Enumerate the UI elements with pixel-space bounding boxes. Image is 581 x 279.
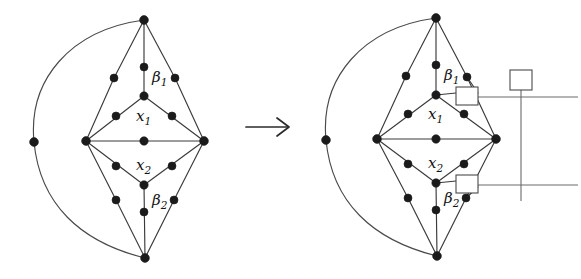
right-vertex-x1-left [404, 110, 412, 118]
figure-root: β1 x1 x2 β2 β1 x1 x2 β2 [0, 0, 581, 279]
right-label-beta-1: β1 [443, 66, 459, 86]
left-vertex-x1-left [112, 112, 120, 120]
right-vertex-x2-right [460, 160, 468, 168]
left-edge-top-to-upperleft [114, 20, 144, 78]
left-label-beta-1: β1 [151, 68, 167, 88]
right-vertex-x1-right [460, 110, 468, 118]
right-edge-midleft-to-lowerleft [377, 139, 408, 198]
right-vertex-lower-left-outer [404, 194, 412, 202]
left-label-beta-2-sub: 2 [160, 199, 168, 211]
figure-canvas: β1 x1 x2 β2 β1 x1 x2 β2 [0, 0, 581, 279]
right-edge-upperleft-to-midleft [377, 76, 406, 139]
right-vertex-x2-left [404, 160, 412, 168]
right-label-beta-1-base: β [443, 66, 453, 84]
left-vertex-x2-bottom [140, 181, 148, 189]
right-edge-upperright-to-midright [467, 77, 496, 139]
left-vertex-x1-right [168, 112, 176, 120]
left-label-x-1-sub: 1 [144, 115, 151, 127]
right-vertex-x2-bottom [432, 179, 440, 187]
left-vertex-mid-left [82, 137, 91, 146]
box-root-top [510, 70, 532, 90]
right-vertex-upper-mid-stem [432, 61, 440, 69]
left-edge-upperleft-to-midleft [86, 78, 114, 141]
left-edge-lowerleft-to-bottom [116, 200, 145, 258]
left-label-beta-1-base: β [151, 68, 161, 86]
left-edge-x2bottom-to-bottom [144, 185, 145, 258]
right-vertex-lower-mid-stem [432, 206, 440, 214]
left-vertex-upper-right-outer [171, 74, 179, 82]
right-label-x-1-sub: 1 [436, 113, 443, 125]
right-vertex-mid-left [373, 135, 382, 144]
left-edge-upperright-to-midright [175, 78, 204, 141]
right-edge-x2bottom-to-bottom [436, 183, 437, 256]
right-label-beta-2-sub: 2 [452, 197, 460, 209]
left-edge-midright-to-lowerright [174, 141, 204, 200]
left-vertex-upper-mid-stem [140, 63, 148, 71]
right-edge-top-to-upperleft [406, 18, 436, 76]
right-label-x-1: x1 [428, 105, 443, 125]
left-vertex-lower-left-outer [112, 196, 120, 204]
left-vertex-lower-right-outer [170, 196, 178, 204]
right-vertex-mid-right [492, 135, 501, 144]
left-vertex-x2-right [168, 162, 176, 170]
left-label-beta-2-base: β [151, 191, 161, 209]
left-label-x-2-sub: 2 [143, 164, 151, 176]
left-vertex-upper-left-outer [110, 74, 118, 82]
box-beta-1-attachment [456, 87, 478, 105]
right-edge-lowerleft-to-bottom [408, 198, 437, 256]
left-label-beta-2: β2 [151, 191, 168, 211]
left-label-x-1: x1 [136, 107, 151, 127]
left-vertex-x2-left [112, 162, 120, 170]
left-graph [30, 16, 209, 263]
left-vertex-bottom-apex [141, 254, 150, 263]
right-label-x-2-sub: 2 [435, 162, 443, 174]
left-label-x-2: x2 [136, 156, 151, 176]
right-vertex-upper-right-outer [463, 73, 471, 81]
left-vertex-mid-center [140, 137, 148, 145]
right-label-beta-1-sub: 1 [453, 74, 460, 86]
right-vertex-top-apex [432, 14, 441, 23]
right-vertex-upper-left-outer [402, 72, 410, 80]
left-label-beta-1-sub: 1 [161, 76, 168, 88]
left-vertex-lower-mid-stem [140, 208, 148, 216]
left-vertex-x1-top [140, 92, 148, 100]
right-vertex-x1-top [432, 91, 440, 99]
left-vertex-mid-right [200, 137, 209, 146]
right-vertex-mid-center [432, 135, 440, 143]
right-vertex-lower-right-outer [462, 194, 470, 202]
left-vertex-arc-left [30, 138, 39, 147]
right-vertex-arc-left [322, 136, 331, 145]
box-beta-2-attachment [456, 175, 478, 193]
right-graph [322, 14, 578, 261]
right-label-beta-2-base: β [443, 189, 453, 207]
right-vertex-bottom-apex [433, 252, 442, 261]
right-label-x-2: x2 [428, 154, 443, 174]
left-edge-midleft-to-lowerleft [86, 141, 116, 200]
left-vertex-top-apex [140, 16, 149, 25]
transform-arrow [246, 118, 289, 136]
